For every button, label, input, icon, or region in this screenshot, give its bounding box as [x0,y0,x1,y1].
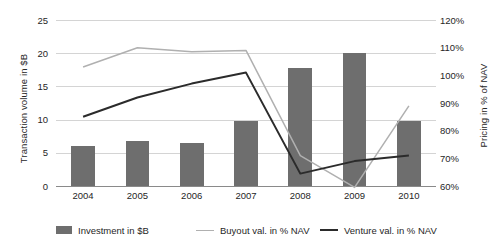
line-series-group [56,20,436,186]
y-axis-left-tick: 25 [22,15,48,26]
y-axis-right-tick: 110% [440,42,474,53]
y-axis-left-ticks: 0510152025 [22,0,48,251]
x-axis-label-2008: 2008 [290,190,311,201]
y-axis-left-tick: 10 [22,114,48,125]
legend-swatch-line-icon [320,229,338,231]
legend-label: Investment in $B [78,225,149,236]
x-axis-label-2005: 2005 [127,190,148,201]
y-axis-right-title: Pricing in % of NAV [478,26,489,186]
legend-item-buyout-val-in-nav[interactable]: Buyout val. in % NAV [196,222,310,238]
gridline [56,186,436,187]
legend-swatch-line-icon [196,230,214,231]
y-axis-right-tick: 90% [440,98,474,109]
legend-label: Buyout val. in % NAV [220,225,310,236]
y-axis-left-tick: 20 [22,48,48,59]
legend-item-venture-val-in-nav[interactable]: Venture val. in % NAV [320,222,437,238]
chart-legend: Investment in $BBuyout val. in % NAVVent… [56,222,446,238]
y-axis-left-tick: 5 [22,147,48,158]
legend-label: Venture val. in % NAV [344,225,437,236]
x-axis-label-2006: 2006 [181,190,202,201]
line-buyout-val-in-nav [83,48,409,188]
y-axis-left-tick: 0 [22,181,48,192]
combo-chart: Transaction volume in $B Pricing in % of… [0,0,493,251]
x-axis-label-2007: 2007 [235,190,256,201]
line-venture-val-in-nav [83,73,409,174]
y-axis-right-tick: 70% [440,153,474,164]
y-axis-left-tick: 15 [22,81,48,92]
x-axis-label-2010: 2010 [398,190,419,201]
x-axis-label-2009: 2009 [344,190,365,201]
x-axis-label-2004: 2004 [73,190,94,201]
plot-area [56,20,436,186]
y-axis-right-tick: 60% [440,181,474,192]
legend-swatch-bar-icon [56,226,72,234]
y-axis-right-tick: 100% [440,70,474,81]
y-axis-right-tick: 120% [440,15,474,26]
y-axis-right-ticks: 60%70%80%90%100%110%120% [440,0,474,251]
legend-item-investment-in-b[interactable]: Investment in $B [56,222,149,238]
y-axis-right-tick: 80% [440,125,474,136]
x-axis-labels: 2004200520062007200820092010 [56,190,436,204]
